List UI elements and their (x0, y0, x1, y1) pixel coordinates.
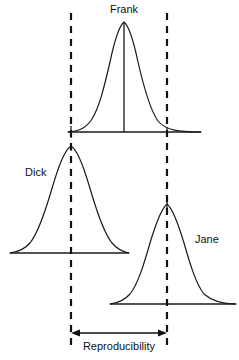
reproducibility-arrowhead-left (71, 330, 80, 337)
distribution-comparison-figure: Frank Dick Jane Reproducibility (0, 0, 239, 360)
frank-curve (68, 22, 201, 132)
reproducibility-arrowhead-right (158, 330, 167, 337)
jane-curve (110, 204, 236, 304)
jane-label: Jane (195, 233, 219, 245)
frank-distribution-group: Frank (68, 3, 201, 138)
reproducibility-measure-group: Reproducibility (71, 330, 167, 353)
dick-curve (10, 146, 129, 253)
dick-distribution-group: Dick (10, 143, 129, 253)
dick-label: Dick (25, 166, 47, 178)
frank-label: Frank (110, 3, 139, 15)
reproducibility-label: Reproducibility (83, 340, 156, 352)
